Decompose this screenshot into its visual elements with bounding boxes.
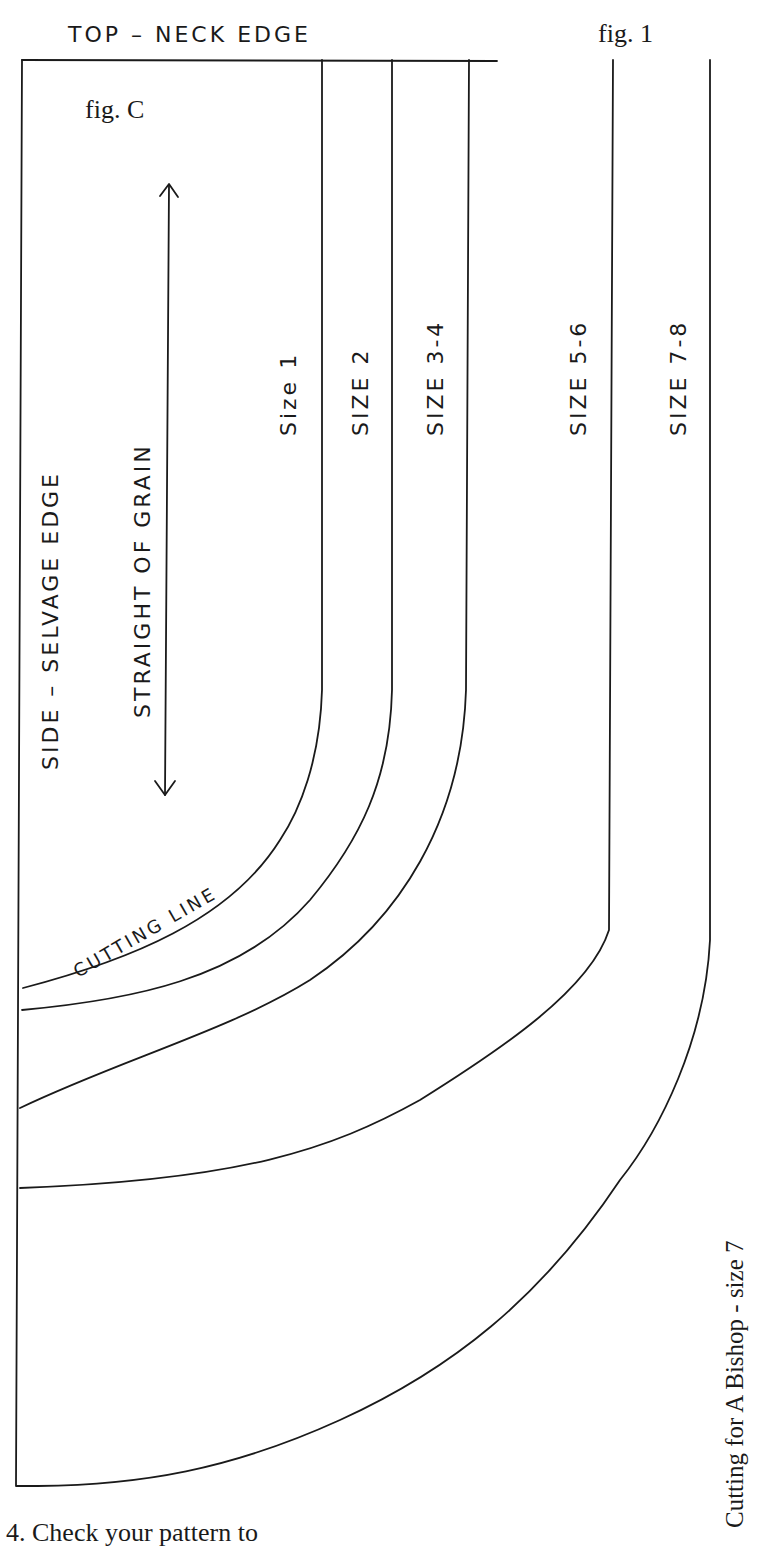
top-neck-edge-label: TOP – NECK EDGE (67, 22, 311, 47)
size-3-4-label: SIZE 3-4 (423, 320, 448, 436)
size-3-4-cutting-line (20, 60, 469, 1108)
straight-of-grain-label: STRAIGHT OF GRAIN (130, 443, 155, 718)
size-5-6-label: SIZE 5-6 (566, 320, 591, 436)
top-edge-line (22, 60, 497, 61)
size-1-label: Size 1 (276, 352, 301, 436)
size-2-cutting-line (22, 60, 392, 1010)
figure-number: fig. 1 (598, 19, 653, 48)
cutting-line-label: CUTTING LINE (70, 882, 221, 981)
grain-arrow-icon (155, 184, 178, 795)
size-7-8-label: SIZE 7-8 (666, 320, 691, 436)
cutting-caption: Cutting for A Bishop - size 7 (721, 1241, 748, 1529)
instruction-text: 4. Check your pattern to (6, 1518, 258, 1548)
figure-c-label: fig. C (85, 95, 144, 124)
size-2-label: SIZE 2 (348, 348, 373, 436)
side-selvage-edge-label: SIDE – SELVAGE EDGE (38, 471, 63, 770)
size-1-cutting-line (23, 60, 322, 988)
left-selvage-edge-line (16, 60, 38, 1486)
size-5-6-cutting-line (20, 60, 613, 1188)
